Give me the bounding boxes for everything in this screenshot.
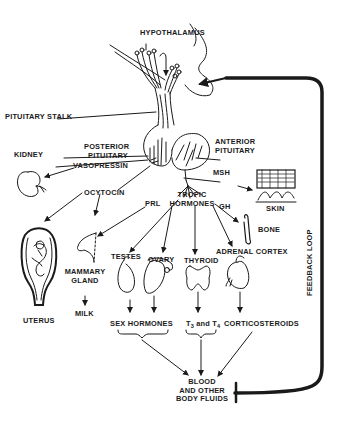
label-t3-and-t4: T3 and T4 bbox=[186, 320, 220, 331]
label-kidney: KIDNEY bbox=[14, 151, 43, 160]
label-corticosteroids: CORTICOSTEROIDS bbox=[224, 320, 299, 329]
label-vasopressin: VASOPRESSIN bbox=[73, 162, 128, 171]
label-pituitary-stalk: PITUITARY STALK bbox=[5, 113, 72, 122]
msh-line bbox=[184, 178, 220, 182]
skin-icon bbox=[256, 170, 296, 202]
label-blood-and-body-fluids: BLOOD AND OTHER BODY FLUIDS bbox=[174, 378, 230, 404]
label-anterior-pituitary: ANTERIOR PITUITARY bbox=[215, 138, 255, 155]
adrenal-cortex-icon bbox=[226, 256, 249, 289]
label-tropic-hormones: TROPIC HORMONES bbox=[168, 191, 216, 208]
label-thyroid: THYROID bbox=[184, 257, 219, 266]
t3t4-brace bbox=[186, 330, 216, 338]
prl-to-mammary-arrow bbox=[98, 207, 145, 236]
uterus-icon bbox=[22, 228, 57, 305]
pituitary-stalk-pointer bbox=[58, 112, 156, 119]
sex-hormones-brace bbox=[118, 330, 168, 338]
label-prl: PRL bbox=[145, 200, 160, 209]
label-gh: GH bbox=[219, 203, 231, 212]
label-adrenal-cortex: ADRENAL CORTEX bbox=[216, 248, 288, 257]
label-mammary-gland: MAMMARY GLAND bbox=[62, 268, 108, 285]
tropic-to-ovary-arrow bbox=[163, 206, 172, 252]
sex-hormones-to-blood-arrow bbox=[142, 340, 188, 375]
kidney-icon bbox=[17, 171, 46, 196]
label-skin: SKIN bbox=[266, 205, 284, 214]
label-sex-hormones: SEX HORMONES bbox=[110, 320, 173, 329]
testes-icon bbox=[118, 257, 135, 293]
label-msh: MSH bbox=[213, 169, 230, 178]
diagram-artwork bbox=[0, 0, 342, 426]
bone-icon bbox=[244, 215, 251, 244]
label-milk: MILK bbox=[75, 310, 94, 319]
label-bone: BONE bbox=[258, 226, 280, 235]
endocrine-diagram: HYPOTHALAMUS PITUITARY STALK POSTERIOR P… bbox=[0, 0, 342, 426]
label-ovary: OVARY bbox=[148, 256, 174, 265]
corticosteroids-to-blood-arrow bbox=[218, 332, 252, 376]
feedback-loop-arrow bbox=[200, 78, 322, 402]
label-ocytocin: OCYTOCIN bbox=[84, 189, 124, 198]
label-hypothalamus: HYPOTHALAMUS bbox=[140, 29, 205, 38]
tropic-to-adrenal-arrow bbox=[213, 206, 232, 246]
pituitary-stalk-icon bbox=[155, 88, 174, 128]
anterior-pituitary-icon bbox=[172, 134, 210, 186]
thyroid-icon bbox=[186, 266, 210, 290]
vasopressin-arrow bbox=[45, 168, 74, 177]
msh-to-skin-arrow bbox=[238, 186, 252, 190]
label-testes: TESTES bbox=[111, 253, 141, 262]
label-feedback-loop: FEEDBACK LOOP bbox=[306, 229, 315, 296]
label-uterus: UTERUS bbox=[23, 317, 55, 326]
mammary-gland-icon bbox=[77, 233, 96, 262]
label-posterior-pituitary: POSTERIOR PITUITARY bbox=[84, 143, 128, 160]
ocytocin-to-uterus-arrow bbox=[45, 193, 82, 221]
